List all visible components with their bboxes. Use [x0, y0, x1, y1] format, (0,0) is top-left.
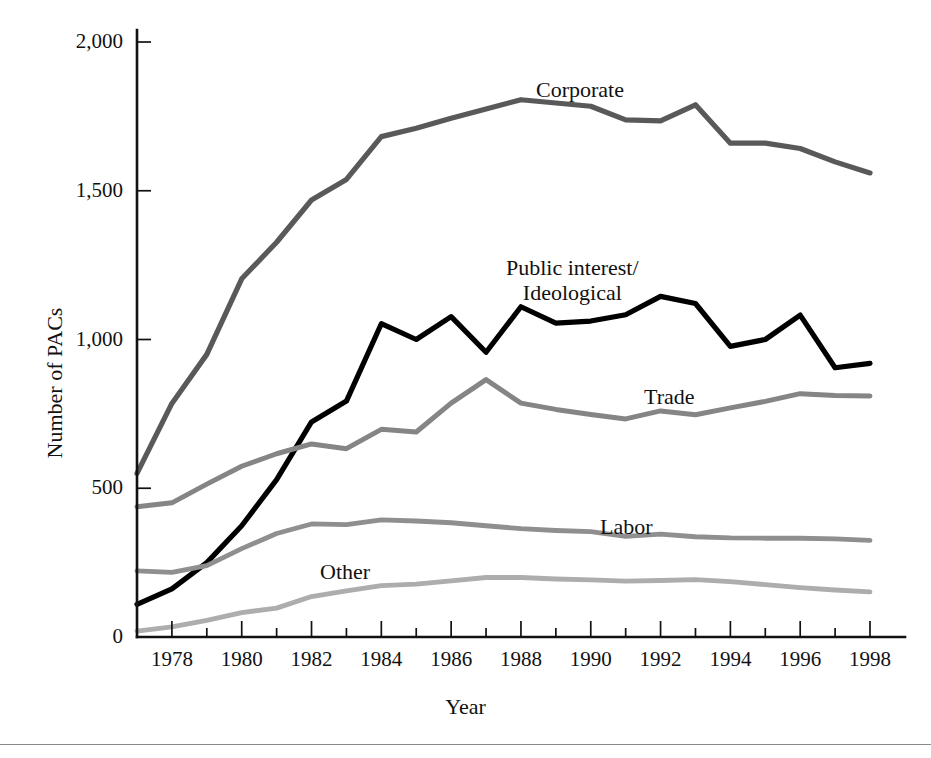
- series-label-public-interest-line2: Ideological: [506, 281, 639, 306]
- y-tick-label-2000: 2,000: [0, 31, 123, 52]
- series-label-public-interest-line1: Public interest/: [506, 256, 639, 281]
- x-tick-label-1978: 1978: [132, 649, 212, 670]
- series-label-other: Other: [320, 560, 370, 585]
- series-line-corporate: [137, 100, 870, 474]
- figure-bottom-rule: [0, 744, 931, 745]
- y-axis-title: Number of PACs: [42, 283, 68, 483]
- x-tick-label-1982: 1982: [272, 649, 352, 670]
- x-tick-label-1998: 1998: [830, 649, 910, 670]
- series-line-trade: [137, 380, 870, 507]
- series-line-public-interest-ideological: [137, 296, 870, 604]
- series-line-labor: [137, 520, 870, 573]
- series-line-other: [137, 578, 870, 632]
- x-tick-label-1986: 1986: [411, 649, 491, 670]
- pac-growth-chart-figure: 2,0001,5001,0005000 19781980198219841986…: [0, 0, 931, 758]
- x-axis-title: Year: [0, 694, 931, 720]
- x-tick-label-1996: 1996: [760, 649, 840, 670]
- y-axis-ticks: [137, 42, 151, 488]
- series-label-public-interest: Public interest/ Ideological: [506, 256, 639, 305]
- x-axis-ticks: [172, 621, 870, 637]
- x-tick-label-1988: 1988: [481, 649, 561, 670]
- x-tick-label-1990: 1990: [551, 649, 631, 670]
- series-label-labor: Labor: [600, 515, 653, 540]
- x-tick-label-1992: 1992: [621, 649, 701, 670]
- x-tick-label-1994: 1994: [690, 649, 770, 670]
- series-group: [137, 100, 870, 631]
- y-tick-label-1500: 1,500: [0, 180, 123, 201]
- x-tick-label-1980: 1980: [202, 649, 282, 670]
- y-tick-label-0: 0: [0, 626, 123, 647]
- x-tick-label-1984: 1984: [341, 649, 421, 670]
- series-label-trade: Trade: [644, 385, 695, 410]
- series-label-corporate: Corporate: [536, 78, 624, 103]
- chart-plot-area: [0, 0, 931, 758]
